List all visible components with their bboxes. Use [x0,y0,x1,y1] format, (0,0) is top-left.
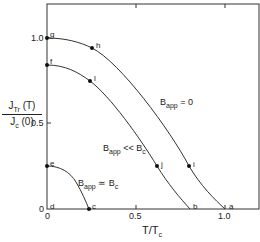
annotation-bapp-critical: Bapp ≃ Bc [78,178,118,190]
point-g [45,36,49,40]
y-axis-label: JTr (T) Jc (0) [2,100,42,129]
y-label-denominator: Jc (0) [2,115,42,129]
label-h: h [96,41,100,50]
y-tick-label-1: 1.0 [31,33,44,43]
annotation-bapp-small: Bapp << Bc [103,143,146,155]
label-a: a [229,202,233,211]
y-tick-label-0: 0 [39,204,44,214]
x-tick-label-1: 1.0 [218,211,231,221]
x-tick-label-05: 0.5 [129,211,142,221]
label-f: f [50,57,52,66]
x-tick-label-0: 0 [45,211,50,221]
point-i [187,164,191,168]
label-b: b [193,202,197,211]
label-c: c [92,202,96,211]
x-axis-label: T/Tc [142,224,162,238]
annotation-bapp-zero: Bapp = 0 [160,97,193,109]
point-f [45,63,49,67]
label-g: g [50,30,54,39]
label-j: j [161,160,163,169]
point-j [155,164,159,168]
y-label-numerator: JTr (T) [2,100,42,115]
point-e [45,164,49,168]
label-l: l [94,74,96,83]
label-i: i [193,160,195,169]
curve-bapp-zero [47,38,225,209]
point-c [87,207,91,211]
point-h [90,46,94,50]
curve-bapp-small [47,65,190,209]
label-d: d [50,202,54,211]
point-l [88,79,92,83]
label-e: e [50,159,54,168]
